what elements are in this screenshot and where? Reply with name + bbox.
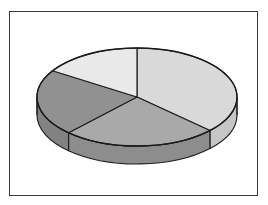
pie-top-faces[interactable] — [37, 48, 237, 146]
figure-root — [0, 0, 268, 205]
pie-chart-3d[interactable] — [0, 0, 268, 205]
